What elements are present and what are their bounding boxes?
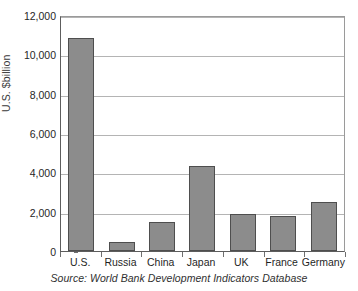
- source-caption: Source: World Bank Development Indicator…: [0, 272, 358, 284]
- x-axis-label-u-s: U.S.: [60, 255, 100, 271]
- x-axis-tick-mark: [345, 252, 346, 257]
- bar-france[interactable]: [270, 216, 296, 251]
- bar-slot: [223, 17, 263, 251]
- bar-slot: [61, 17, 101, 251]
- bar-slot: [263, 17, 303, 251]
- bars-container: [61, 17, 344, 251]
- y-axis-tick-label: 0: [18, 247, 56, 258]
- bar-china[interactable]: [149, 222, 175, 251]
- y-axis-tick-label: 10,000: [18, 50, 56, 61]
- y-axis-tick-label: 4,000: [18, 168, 56, 179]
- x-axis-label-japan: Japan: [181, 255, 221, 271]
- bar-russia[interactable]: [109, 242, 135, 251]
- y-axis-tick-label: 12,000: [18, 11, 56, 22]
- plot-area: [60, 16, 345, 252]
- x-axis-label-uk: UK: [221, 255, 261, 271]
- bar-slot: [101, 17, 141, 251]
- bar-slot: [142, 17, 182, 251]
- y-axis-tick-label: 2,000: [18, 207, 56, 218]
- bar-germany[interactable]: [311, 202, 337, 251]
- x-axis-label-russia: Russia: [100, 255, 140, 271]
- x-axis-label-france: France: [261, 255, 301, 271]
- bar-uk[interactable]: [230, 214, 256, 251]
- bar-japan[interactable]: [189, 166, 215, 251]
- y-axis-tick-label: 8,000: [18, 89, 56, 100]
- x-axis-label-germany: Germany: [302, 255, 345, 271]
- x-axis-category-labels: U.S.RussiaChinaJapanUKFranceGermany: [60, 255, 345, 271]
- bar-chart-figure: U.S. $billion 02,0004,0006,0008,00010,00…: [0, 0, 358, 291]
- y-axis-tick-label: 6,000: [18, 129, 56, 140]
- y-axis-title: U.S. $billion: [0, 12, 16, 112]
- x-axis-label-china: China: [141, 255, 181, 271]
- bar-slot: [304, 17, 344, 251]
- y-axis-tick-labels: 02,0004,0006,0008,00010,00012,000: [18, 10, 56, 250]
- bar-slot: [182, 17, 222, 251]
- bar-u-s[interactable]: [68, 38, 94, 251]
